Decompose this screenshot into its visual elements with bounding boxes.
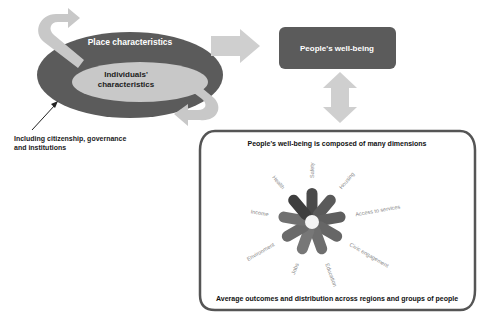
diagram-canvas: Place characteristics Individuals' chara… (0, 0, 489, 326)
panel-footer: Average outcomes and distribution across… (216, 295, 458, 303)
right-arrow-icon (211, 29, 260, 63)
wellbeing-label: People's well-being (300, 44, 374, 53)
place-cluster: Place characteristics Individuals' chara… (37, 8, 223, 126)
flower-center (305, 215, 319, 229)
dimension-label-safety: Safety (309, 162, 315, 178)
note-line1: Including citizenship, governance (14, 135, 127, 143)
individuals-label-line1: Individuals' (104, 70, 148, 79)
note-line2: and institutions (14, 144, 66, 151)
double-arrow-icon (323, 72, 357, 123)
individuals-label-line2: characteristics (98, 80, 155, 89)
wellbeing-box: People's well-being (279, 27, 396, 69)
dimensions-panel: People's well-being is composed of many … (200, 131, 475, 310)
place-characteristics-label: Place characteristics (88, 37, 173, 47)
note-pointer-arrow-icon (32, 101, 58, 130)
panel-title: People's well-being is composed of many … (247, 140, 426, 148)
